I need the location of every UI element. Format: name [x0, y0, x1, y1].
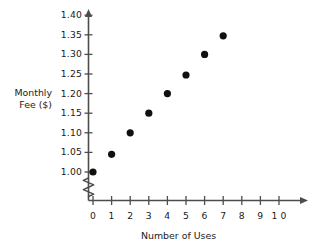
x-tick-label: 1 0	[271, 211, 286, 220]
y-tick-label: 1.35	[52, 30, 82, 39]
x-tick-label: 5	[183, 211, 189, 220]
x-tick-label: 1	[109, 211, 115, 220]
scatter-chart: Monthly Fee ($) Number of Uses 1.001.051…	[0, 0, 322, 249]
y-tick-label: 1.15	[52, 109, 82, 118]
x-tick-label: 2	[127, 211, 133, 220]
y-tick-label: 1.40	[52, 11, 82, 20]
y-tick-label: 1.00	[52, 167, 82, 176]
y-axis-title: Monthly Fee ($)	[8, 87, 52, 112]
y-tick-label: 1.25	[52, 69, 82, 78]
data-points	[89, 32, 226, 175]
x-tick-label: 8	[239, 211, 245, 220]
tick-marks	[85, 15, 280, 205]
x-tick-label: 3	[146, 211, 152, 220]
x-tick-label: 6	[202, 211, 208, 220]
y-tick-label: 1.10	[52, 128, 82, 137]
x-tick-label: 7	[220, 211, 226, 220]
y-tick-label: 1.05	[52, 148, 82, 157]
x-tick-label: 0	[90, 211, 96, 220]
x-axis-title: Number of Uses	[141, 230, 216, 241]
y-tick-label: 1.30	[52, 50, 82, 59]
axes	[85, 9, 308, 204]
x-tick-label: 9	[257, 211, 263, 220]
x-tick-label: 4	[164, 211, 170, 220]
y-tick-label: 1.20	[52, 89, 82, 98]
